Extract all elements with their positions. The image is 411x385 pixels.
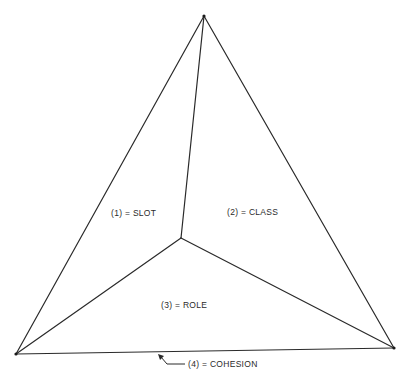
edge-base — [16, 348, 394, 354]
vertex-bottom-right — [392, 346, 395, 349]
edge-apex-to-center — [181, 16, 204, 238]
edge-center-to-bottom-left — [16, 238, 181, 354]
base-label-cohesion: (4) = COHESION — [188, 359, 258, 369]
edge-apex-to-bottom-right — [204, 16, 394, 348]
base-pointer-arrow-icon — [158, 354, 185, 364]
pyramid-diagram: (1) = SLOT (2) = CLASS (3) = ROLE (4) = … — [0, 0, 411, 385]
face-label-role: (3) = ROLE — [161, 300, 207, 310]
face-label-class: (2) = CLASS — [227, 207, 278, 217]
face-label-slot: (1) = SLOT — [111, 208, 156, 218]
vertex-bottom-left — [14, 352, 17, 355]
vertex-apex — [202, 14, 205, 17]
